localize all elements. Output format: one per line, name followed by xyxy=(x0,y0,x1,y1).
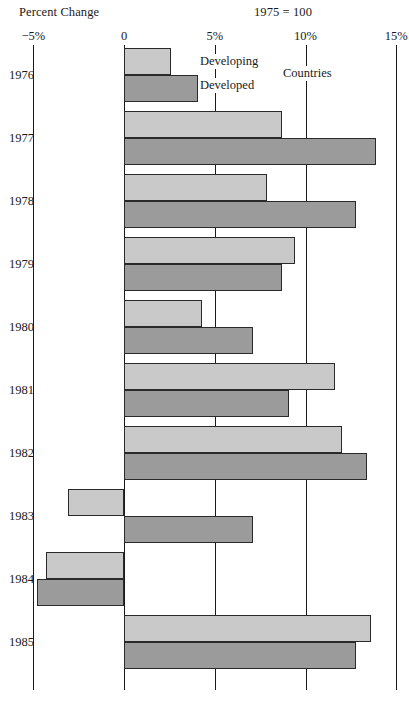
x-axis-tick-label: 5% xyxy=(206,29,223,44)
percent-change-bar-chart: Percent Change 1975 = 100 19761977197819… xyxy=(0,0,409,705)
year-label-1981: 1981 xyxy=(9,383,34,398)
bar-1979-developed xyxy=(124,264,282,291)
bar-1983-developing xyxy=(68,489,124,516)
bar-1985-developing xyxy=(124,615,371,642)
bar-1984-developed xyxy=(37,579,124,606)
bar-1981-developed xyxy=(124,390,289,417)
year-label-1983: 1983 xyxy=(9,509,34,524)
bar-1982-developed xyxy=(124,453,367,480)
bar-1984-developing xyxy=(46,552,124,579)
bar-1979-developing xyxy=(124,237,295,264)
x-axis-tick-label: 0 xyxy=(121,29,127,44)
gridline-15 xyxy=(396,45,397,690)
bar-1980-developing xyxy=(124,300,202,327)
year-label-1985: 1985 xyxy=(9,635,34,650)
legend-label-countries: Countries xyxy=(281,66,334,81)
x-axis-tick-label: −5% xyxy=(21,29,45,44)
bar-1980-developed xyxy=(124,327,253,354)
bar-1977-developed xyxy=(124,138,376,165)
year-label-1980: 1980 xyxy=(9,320,34,335)
year-label-1984: 1984 xyxy=(9,572,34,587)
year-label-1978: 1978 xyxy=(9,194,34,209)
bar-1981-developing xyxy=(124,363,335,390)
bar-1982-developing xyxy=(124,426,342,453)
bar-1976-developed xyxy=(124,75,198,102)
legend-label-developed: Developed xyxy=(198,78,256,93)
bar-1978-developing xyxy=(124,174,267,201)
bar-1978-developed xyxy=(124,201,356,228)
year-label-1976: 1976 xyxy=(9,68,34,83)
year-label-1977: 1977 xyxy=(9,131,34,146)
bar-1977-developing xyxy=(124,111,282,138)
bar-1983-developed xyxy=(124,516,253,543)
x-axis-tick-label: 15% xyxy=(385,29,408,44)
plot-area: 1976197719781979198019811982198319841985 xyxy=(0,0,409,705)
year-label-1979: 1979 xyxy=(9,257,34,272)
x-axis-tick-label: 10% xyxy=(294,29,317,44)
legend-label-developing: Developing xyxy=(198,54,260,69)
year-label-1982: 1982 xyxy=(9,446,34,461)
bar-1976-developing xyxy=(124,48,171,75)
bar-1985-developed xyxy=(124,642,356,669)
